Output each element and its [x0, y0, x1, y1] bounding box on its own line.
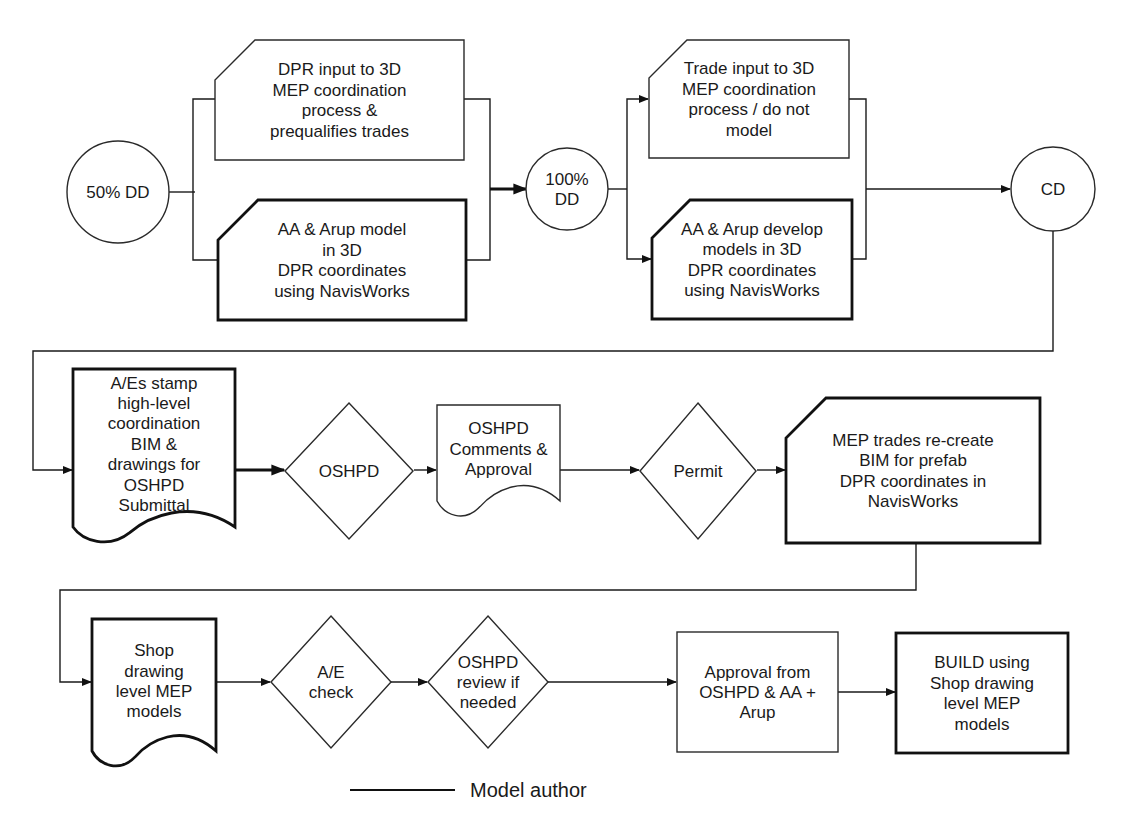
node-label-line: NavisWorks — [868, 492, 958, 511]
node-label-line: OSHPD — [124, 476, 184, 495]
node-aa_arup_model: AA & Arup modelin 3DDPR coordinatesusing… — [218, 200, 466, 320]
node-label-line: DD — [555, 190, 580, 209]
node-label-line: Permit — [673, 462, 722, 481]
card-shape — [215, 40, 464, 160]
node-label-line: process / do not — [689, 100, 810, 119]
node-aes_stamp: A/Es stamphigh-levelcoordinationBIM &dra… — [73, 369, 235, 542]
node-trade_input: Trade input to 3DMEP coordinationprocess… — [649, 40, 849, 158]
node-label-line: process & — [302, 101, 378, 120]
node-label-line: BIM for prefab — [859, 451, 967, 470]
node-label-line: DPR coordinates in — [840, 472, 986, 491]
node-label-line: MEP trades re-create — [832, 431, 993, 450]
node-label-line: models — [955, 715, 1010, 734]
node-label-line: Approval — [465, 460, 532, 479]
node-label-line: high-level — [118, 394, 191, 413]
node-label-line: using NavisWorks — [274, 282, 410, 301]
card-shape — [649, 40, 849, 158]
node-dd50: 50% DD — [67, 141, 169, 243]
node-build: BUILD usingShop drawinglevel MEPmodels — [896, 633, 1068, 753]
node-label-line: DPR coordinates — [688, 261, 817, 280]
node-layer: 50% DDDPR input to 3DMEP coordinationpro… — [67, 40, 1095, 766]
node-label-line: Shop drawing — [930, 674, 1034, 693]
connector-to-aa-develop — [627, 189, 651, 259]
node-label-line: Approval from — [705, 663, 811, 682]
node-label-line: OSHPD — [458, 653, 518, 672]
node-aa_arup_develop: AA & Arup developmodels in 3DDPR coordin… — [652, 200, 852, 319]
node-label-line: level MEP — [116, 682, 193, 701]
node-label-line: coordination — [108, 414, 201, 433]
node-cd: CD — [1011, 147, 1095, 231]
node-label-line: drawing — [124, 662, 184, 681]
node-label-line: DPR input to 3D — [278, 60, 401, 79]
card-shape — [652, 200, 852, 319]
rect-shape — [896, 633, 1068, 753]
node-label-line: OSHPD — [468, 419, 528, 438]
node-label-line: needed — [460, 693, 517, 712]
node-ae_check: A/Echeck — [271, 616, 391, 748]
node-label-line: MEP coordination — [682, 80, 816, 99]
node-label-line: DPR coordinates — [278, 261, 407, 280]
node-label-line: review if — [457, 673, 520, 692]
circle-shape — [526, 148, 608, 230]
card-shape — [218, 200, 466, 320]
legend-label: Model author — [470, 779, 587, 801]
node-permit: Permit — [640, 403, 756, 539]
node-label-line: 100% — [545, 170, 588, 189]
connector-to-trade-input — [627, 99, 648, 189]
node-oshpd_decision: OSHPD — [285, 403, 413, 539]
node-dd100: 100%DD — [526, 148, 608, 230]
node-label-line: in 3D — [322, 241, 362, 260]
connector-merge-right-bus — [464, 99, 490, 260]
node-label-line: OSHPD & AA + — [699, 683, 816, 702]
node-label-line: CD — [1041, 180, 1066, 199]
node-label-line: drawings for — [108, 455, 201, 474]
node-label-line: A/E — [317, 663, 344, 682]
node-label-line: models in 3D — [702, 240, 801, 259]
node-label-line: Submittal — [119, 496, 190, 515]
node-label-line: BIM & — [131, 435, 178, 454]
node-label-line: prequalifies trades — [270, 122, 409, 141]
node-label-line: check — [309, 683, 354, 702]
node-label-line: BUILD using — [934, 653, 1029, 672]
connector-split-left-bus — [193, 99, 218, 260]
node-label-line: 50% DD — [86, 183, 149, 202]
node-label-line: OSHPD — [319, 462, 379, 481]
node-label-line: using NavisWorks — [684, 281, 820, 300]
node-shop_drawing: Shopdrawinglevel MEPmodels — [92, 619, 216, 766]
node-label-line: level MEP — [944, 694, 1021, 713]
node-label-line: models — [127, 702, 182, 721]
node-mep_recreate: MEP trades re-createBIM for prefabDPR co… — [786, 398, 1040, 543]
node-label-line: Comments & — [449, 440, 548, 459]
node-label-line: Shop — [134, 641, 174, 660]
flowchart-canvas: 50% DDDPR input to 3DMEP coordinationpro… — [0, 0, 1147, 824]
node-dpr_input: DPR input to 3DMEP coordinationprocess &… — [215, 40, 464, 160]
node-label-line: A/Es stamp — [111, 374, 198, 393]
diamond-shape — [271, 616, 391, 748]
node-label-line: Arup — [740, 703, 776, 722]
node-label-line: Trade input to 3D — [684, 59, 815, 78]
node-label-line: AA & Arup develop — [681, 220, 823, 239]
node-approval: Approval fromOSHPD & AA +Arup — [677, 632, 838, 752]
node-label-line: AA & Arup model — [278, 220, 407, 239]
node-label-line: model — [726, 121, 772, 140]
node-oshpd_review: OSHPDreview ifneeded — [428, 616, 548, 748]
node-label-line: MEP coordination — [273, 81, 407, 100]
legend: Model author — [350, 779, 587, 801]
node-oshpd_comments: OSHPDComments &Approval — [437, 405, 560, 516]
card-shape — [786, 398, 1040, 543]
